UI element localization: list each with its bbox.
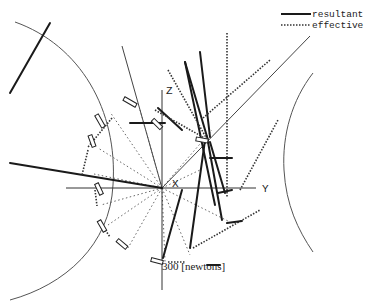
legend-resultant-label: resultant	[312, 9, 363, 20]
z-axis-label: Z	[166, 85, 173, 97]
right-arc	[284, 73, 313, 252]
y-axis-label: Y	[262, 183, 269, 195]
left-arc	[10, 22, 113, 300]
scale-label: 300 [newtons]	[162, 260, 225, 272]
force-diagram: Z Y X 300 [newtons] resultant effective	[0, 0, 371, 303]
x-axis-label: X	[172, 178, 179, 190]
legend: resultant effective	[281, 9, 364, 31]
legend-effective-label: effective	[312, 20, 364, 31]
effective-vectors	[82, 33, 278, 262]
